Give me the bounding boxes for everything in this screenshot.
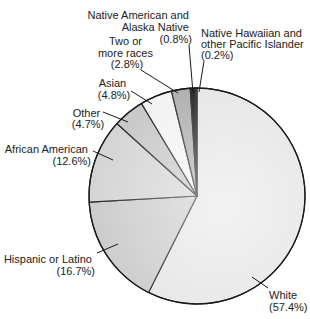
leader-asian <box>131 91 152 104</box>
leader-two-or-more <box>141 70 178 93</box>
label-other: Other (4.7%) <box>72 107 104 130</box>
label-hispanic: Hispanic or Latino (16.7%) <box>4 253 95 277</box>
leader-native-american <box>189 45 193 93</box>
leader-native-hawaiian <box>199 61 204 92</box>
label-two-or-more: Two or more races (2.8%) <box>98 35 156 70</box>
pie-chart: Native American and Alaska Native (0.8%)… <box>0 0 310 319</box>
pie-highlight <box>89 88 305 304</box>
label-native-hawaiian: Native Hawaiian and other Pacific Island… <box>201 27 307 61</box>
label-white: White (57.4%) <box>269 289 308 313</box>
label-asian: Asian (4.8%) <box>98 77 130 101</box>
label-african-american: African American (12.6%) <box>5 143 91 167</box>
